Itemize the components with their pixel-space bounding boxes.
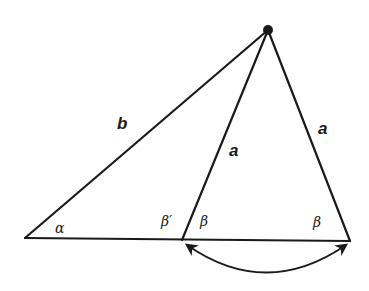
label-angle-beta-prime: β′ xyxy=(160,213,173,229)
side-a-inner xyxy=(182,30,268,240)
triangle-diagram: b a a α β′ β β xyxy=(0,0,369,291)
apex-point-icon xyxy=(263,25,273,35)
label-angle-beta-right: β xyxy=(312,214,321,230)
label-side-a-outer: a xyxy=(318,119,327,138)
label-side-b: b xyxy=(117,114,127,133)
label-angle-beta-middle: β xyxy=(199,213,208,229)
label-side-a-inner: a xyxy=(229,141,238,160)
baseline xyxy=(25,238,350,241)
label-angle-alpha: α xyxy=(55,220,65,236)
swing-arc-arrow xyxy=(187,245,346,273)
side-b xyxy=(25,30,268,238)
side-a-outer xyxy=(268,30,350,241)
